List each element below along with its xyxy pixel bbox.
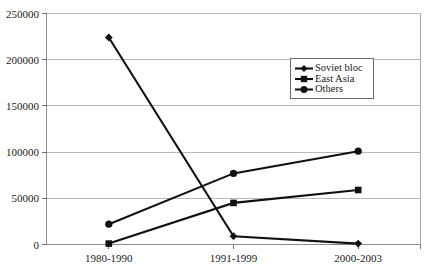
data-point-others-2000-2003 [355,148,362,155]
chart-legend: Soviet bloc East Asia Others [291,59,374,99]
data-point-east-asia-2000-2003 [355,187,362,194]
data-point-others-1991-1999 [230,170,237,177]
chart-background [0,0,428,272]
y-tick-label-50000: 50000 [12,192,40,204]
legend-label-others: Others [315,83,343,94]
y-tick-label-250000: 250000 [6,8,40,20]
y-tick-label-150000: 150000 [6,100,40,112]
legend-marker-square-icon [301,76,307,82]
legend-label-soviet-bloc: Soviet bloc [315,62,363,73]
x-tick-label-1980-1990: 1980-1990 [85,252,133,264]
x-tick-label-2000-2003: 2000-2003 [334,252,382,264]
legend-marker-circle-icon [301,86,308,93]
data-point-others-1980-1990 [105,221,112,228]
data-point-east-asia-1980-1990 [106,240,113,247]
y-tick-label-0: 0 [34,239,40,251]
x-tick-label-1991-1999: 1991-1999 [210,252,258,264]
line-chart: 250000 200000 150000 100000 50000 0 1980… [0,0,428,272]
data-point-east-asia-1991-1999 [230,200,237,207]
y-tick-label-200000: 200000 [6,54,40,66]
y-tick-label-100000: 100000 [6,146,40,158]
chart-canvas: 250000 200000 150000 100000 50000 0 1980… [0,0,428,272]
x-axis-labels: 1980-1990 1991-1999 2000-2003 [85,252,383,264]
legend-label-east-asia: East Asia [315,73,355,84]
